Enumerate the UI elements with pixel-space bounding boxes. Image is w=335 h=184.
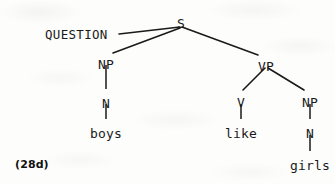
tree-feature-question: QUESTION	[45, 28, 108, 41]
tree-terminal-like: like	[225, 127, 257, 140]
figure-canvas: S QUESTION NP N VP V NP N boys like girl…	[0, 0, 335, 184]
tree-node-v: V	[237, 96, 245, 109]
tree-node-n-subject: N	[102, 97, 110, 110]
edge-s-to-vp	[182, 27, 258, 55]
tree-node-vp: VP	[258, 60, 274, 73]
edge-s-to-np-subject	[113, 28, 180, 53]
tree-node-np-object: NP	[302, 96, 318, 109]
tree-terminal-boys: boys	[90, 127, 122, 140]
tree-terminal-girls: girls	[290, 159, 330, 172]
example-number-label: (28d)	[15, 158, 49, 171]
tree-node-s: S	[177, 17, 185, 30]
tree-node-n-object: N	[306, 127, 314, 140]
tree-node-np-subject: NP	[98, 58, 114, 71]
edge-question-to-s	[119, 27, 180, 34]
